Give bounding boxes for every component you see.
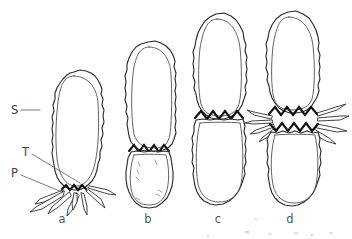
- callout-label-T: T: [21, 145, 30, 159]
- figure-root: S T P a b c d: [0, 0, 352, 239]
- panel-label-a: a: [58, 212, 65, 226]
- panel-c: [192, 13, 247, 205]
- panel-b: [125, 41, 176, 208]
- callout-label-P: P: [11, 166, 18, 180]
- panel-label-b: b: [144, 212, 151, 226]
- panel-b-upper-outer-wall: [125, 41, 176, 151]
- callout-label-S: S: [11, 103, 18, 117]
- panel-label-c: c: [215, 212, 221, 226]
- panel-label-d: d: [286, 212, 293, 226]
- figure-canvas: S T P a b c d: [0, 0, 352, 239]
